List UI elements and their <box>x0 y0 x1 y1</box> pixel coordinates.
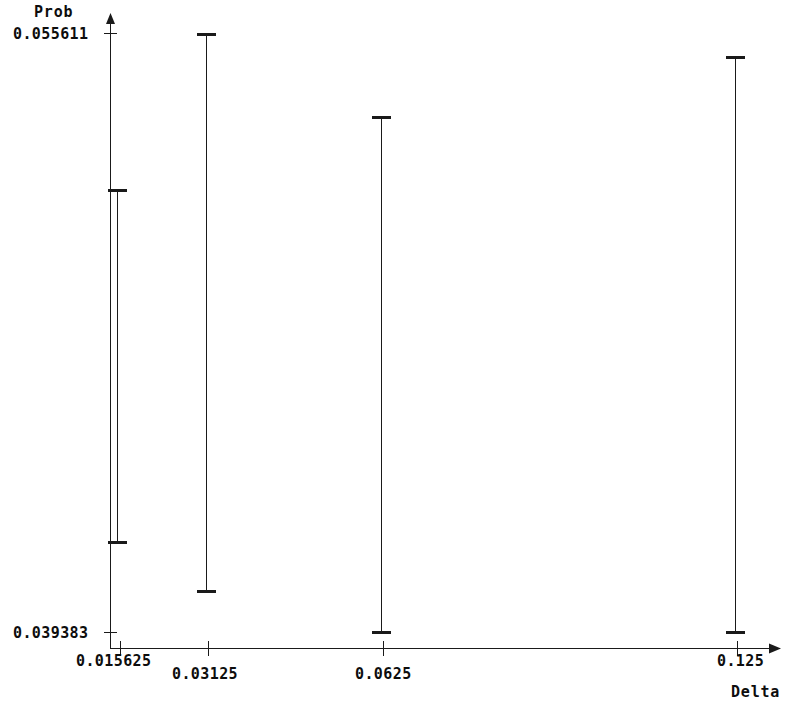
x-axis-arrowhead <box>769 644 781 654</box>
y-axis-arrowhead <box>106 13 115 24</box>
error-bar-0.0625 <box>372 117 391 633</box>
x-axis-tick-label-2: 0.03125 <box>172 665 238 683</box>
x-axis-tick-label-1: 0.015625 <box>76 652 151 670</box>
x-axis-group <box>111 641 782 656</box>
chart-container: Prob 0.055611 0.039383 0.015625 0.03125 … <box>0 0 812 708</box>
x-axis-tick-label-3: 0.0625 <box>355 665 412 683</box>
y-axis-title: Prob <box>34 3 73 21</box>
y-axis-group <box>104 13 117 649</box>
y-axis-tick-label-bottom: 0.039383 <box>13 624 88 642</box>
x-axis-tick-label-4: 0.125 <box>717 652 764 670</box>
error-bar-0.125 <box>726 57 745 633</box>
error-bar-chart: Prob 0.055611 0.039383 0.015625 0.03125 … <box>0 0 812 708</box>
y-axis-tick-label-top: 0.055611 <box>13 25 88 43</box>
x-axis-title: Delta <box>731 683 780 701</box>
error-bar-0.03125 <box>197 34 216 592</box>
